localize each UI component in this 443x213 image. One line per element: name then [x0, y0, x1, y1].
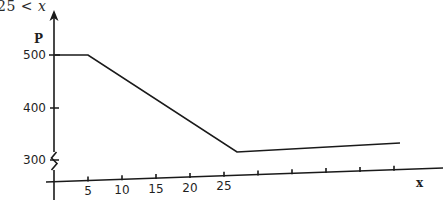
x-axis-line	[46, 168, 443, 182]
y-tick-label-400: 400	[12, 101, 46, 115]
x-axis-title: x	[416, 176, 423, 190]
y-axis-title: P	[34, 32, 43, 46]
price-curve	[55, 55, 400, 152]
y-tick-label-500: 500	[12, 48, 46, 62]
x-tick-label-25: 25	[213, 179, 235, 193]
y-tick-label-300: 300	[12, 153, 46, 167]
x-tick-label-20: 20	[179, 181, 201, 195]
x-tick-label-15: 15	[145, 182, 167, 196]
price-curve-path	[55, 55, 400, 152]
y-axis-group	[50, 10, 59, 200]
x-axis-group	[46, 166, 443, 182]
axis-break-zigzag-icon	[52, 152, 58, 170]
x-tick-label-5: 5	[77, 184, 99, 198]
x-tick-label-10: 10	[111, 183, 133, 197]
piecewise-price-graph: P x 500 400 300 5 10 15 20 25	[0, 0, 443, 213]
